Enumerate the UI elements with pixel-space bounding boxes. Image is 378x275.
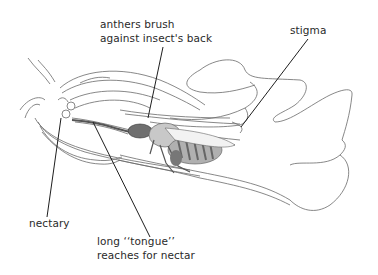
tongue-label-line1: long ‘‘tongue’’ <box>97 234 195 248</box>
tongue-leader <box>93 122 150 237</box>
tongue-label-line2: reaches for nectar <box>97 248 195 262</box>
insect-head <box>128 124 152 138</box>
stigma-label: stigma <box>290 23 326 37</box>
anthers-leader <box>148 47 163 118</box>
anthers-label-line2: against insect's back <box>100 31 212 45</box>
nectary-label: nectary <box>29 216 70 230</box>
tongue-label: long ‘‘tongue’’ reaches for nectar <box>97 234 195 262</box>
anthers-label-line1: anthers brush <box>100 17 212 31</box>
anthers-label: anthers brush against insect's back <box>100 17 212 45</box>
